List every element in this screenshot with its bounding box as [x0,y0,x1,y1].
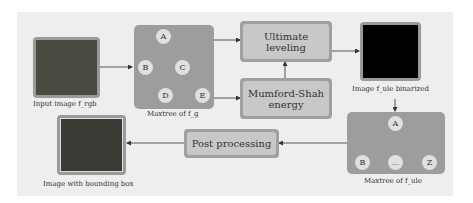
maxtree-ule-box: A B ... Z [347,112,445,174]
mumford-shah-box: Mumford-Shah energy [240,78,332,119]
input-image [33,37,100,98]
maxtree-ule-caption: Maxtree of f_ule [364,177,422,185]
ultimate-leveling-label: Ultimate leveling [243,24,329,59]
binarized-image [360,22,421,81]
maxtree-g-caption: Maxtree of f_g [147,110,199,118]
post-processing-label: Post processing [187,132,276,155]
output-caption: Image with bounding box [43,180,134,188]
tree-node: ... [388,155,403,170]
tree-node: B [355,155,370,170]
maxtree-g-box: A B C D E [134,25,214,109]
ultimate-leveling-box: Ultimate leveling [240,21,332,62]
tree-node: A [156,29,171,44]
output-image [57,115,126,175]
tree-node: Z [422,155,437,170]
input-caption: Input image f_rgb [33,100,97,108]
tree-node: B [138,60,153,75]
tree-node: E [195,88,210,103]
post-processing-box: Post processing [184,129,279,158]
tree-node: C [175,60,190,75]
tree-node: A [388,116,403,131]
mumford-shah-label: Mumford-Shah energy [243,81,329,116]
binarized-caption: Image f_ule binarized [352,85,429,93]
tree-node: D [158,88,173,103]
